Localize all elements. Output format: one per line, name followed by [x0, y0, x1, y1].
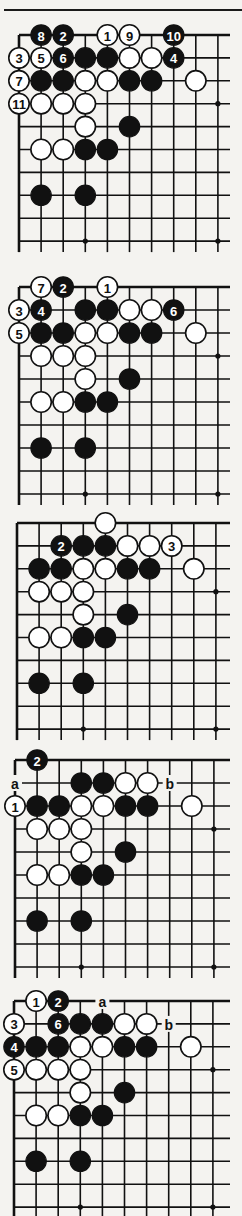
svg-text:1: 1 — [32, 995, 39, 1010]
black-stone — [92, 1105, 112, 1125]
white-stone-3: 3 — [4, 1014, 24, 1034]
white-stone — [181, 1037, 201, 1057]
black-stone — [26, 1037, 46, 1057]
star-point-icon — [210, 1205, 215, 1210]
white-stone — [48, 1060, 68, 1080]
black-stone — [136, 1037, 156, 1057]
svg-text:4: 4 — [10, 1040, 18, 1055]
white-stone — [136, 1014, 156, 1034]
black-stone — [70, 1105, 90, 1125]
white-stone — [26, 1105, 46, 1125]
diagram-5: ab123645 — [0, 0, 242, 1216]
white-stone — [48, 1105, 68, 1125]
white-stone-1: 1 — [26, 991, 46, 1011]
black-stone-4: 4 — [4, 1037, 24, 1057]
white-stone-5: 5 — [4, 1060, 24, 1080]
black-stone-2: 2 — [48, 991, 68, 1011]
black-stone — [26, 1151, 46, 1171]
svg-text:5: 5 — [10, 1063, 17, 1078]
black-stone — [48, 1037, 68, 1057]
svg-text:3: 3 — [10, 1017, 17, 1032]
black-stone-6: 6 — [48, 1014, 68, 1034]
white-stone — [70, 1082, 90, 1102]
star-point-icon — [210, 1067, 215, 1072]
black-stone — [70, 1014, 90, 1034]
point-label-a: a — [99, 994, 107, 1010]
star-point-icon — [78, 1205, 83, 1210]
white-stone — [70, 1060, 90, 1080]
black-stone — [70, 1151, 90, 1171]
white-stone — [92, 1037, 112, 1057]
white-stone — [114, 1014, 134, 1034]
white-stone — [26, 1060, 46, 1080]
black-stone — [92, 1014, 112, 1034]
point-label-b: b — [164, 1017, 173, 1033]
black-stone — [114, 1082, 134, 1102]
black-stone — [114, 1037, 134, 1057]
svg-text:6: 6 — [55, 1017, 62, 1032]
white-stone — [70, 1037, 90, 1057]
svg-text:2: 2 — [55, 995, 62, 1010]
